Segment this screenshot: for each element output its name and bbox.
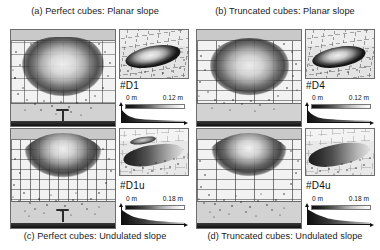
perspective-scatter: [306, 129, 374, 175]
colorbar-max-label: 0.18 m: [163, 195, 183, 202]
panel-b-colorbar: 0 m 0.12 m: [311, 94, 369, 104]
particle-scatter: [11, 129, 115, 228]
panel-a-caption: (a) Perfect cubes: Planar slope: [0, 6, 190, 16]
figure-root: (a) Perfect cubes: Planar slope: [0, 0, 380, 250]
perspective-scatter: [120, 129, 188, 175]
perspective-scatter: [120, 30, 188, 78]
panel-b-perspective-view: [305, 29, 375, 79]
panel-d: (d) Truncated cubes: Undulated slope: [190, 125, 380, 250]
panel-a-perspective-view: [119, 29, 189, 79]
profile-x-axis: [307, 122, 371, 123]
particle-scatter: [197, 129, 301, 228]
panel-a-deposit-label: #D1: [120, 80, 139, 91]
panel-d-plan-view: [196, 128, 302, 229]
panel-c-deposit-label: #D1u: [120, 180, 145, 191]
profile-deposit-thickness: [308, 208, 370, 224]
panel-b-deposit-label: #D4: [306, 80, 325, 91]
profile-y-arrow: [305, 102, 309, 106]
profile-deposit-thickness: [308, 107, 370, 122]
profile-y-arrow: [119, 102, 123, 106]
profile-x-axis: [307, 224, 371, 225]
panel-a-plan-view: [10, 29, 116, 127]
panel-a: (a) Perfect cubes: Planar slope: [0, 0, 190, 125]
panel-b-caption: (b) Truncated cubes: Planar slope: [190, 6, 380, 16]
panel-c-profile-plot: [121, 207, 185, 225]
panel-c-perspective-view: [119, 128, 189, 176]
panel-a-colorbar: 0 m 0.12 m: [125, 94, 183, 104]
profile-y-arrow: [305, 203, 309, 207]
profile-x-axis: [121, 224, 185, 225]
colorbar-min-label: 0 m: [312, 195, 323, 202]
panel-c-caption: (c) Perfect cubes: Undulated slope: [0, 231, 190, 241]
panel-d-deposit-label: #D4u: [306, 180, 331, 191]
panel-a-profile-plot: [121, 106, 185, 123]
panel-c-plan-view: [10, 128, 116, 229]
colorbar-max-label: 0.12 m: [349, 94, 369, 101]
perspective-scatter: [306, 30, 374, 78]
colorbar-min-label: 0 m: [126, 195, 137, 202]
panel-d-caption: (d) Truncated cubes: Undulated slope: [190, 231, 380, 241]
panel-d-profile-plot: [307, 207, 371, 225]
profile-deposit-thickness: [122, 107, 184, 122]
panel-c: (c) Perfect cubes: Undulated slope: [0, 125, 190, 250]
colorbar-min-label: 0 m: [126, 94, 137, 101]
panel-c-colorbar: 0 m 0.18 m: [125, 195, 183, 205]
profile-deposit-thickness: [122, 208, 184, 224]
particle-scatter: [11, 30, 115, 126]
colorbar-max-label: 0.18 m: [349, 195, 369, 202]
panel-d-colorbar: 0 m 0.18 m: [311, 195, 369, 205]
profile-x-axis: [121, 122, 185, 123]
profile-x-arrow: [184, 223, 188, 227]
profile-y-arrow: [119, 203, 123, 207]
panel-b: (b) Truncated cubes: Planar slope: [190, 0, 380, 125]
panel-d-perspective-view: [305, 128, 375, 176]
colorbar-min-label: 0 m: [312, 94, 323, 101]
profile-x-arrow: [370, 223, 374, 227]
panel-b-profile-plot: [307, 106, 371, 123]
panel-b-plan-view: [196, 29, 302, 127]
particle-scatter: [197, 30, 301, 126]
colorbar-max-label: 0.12 m: [163, 94, 183, 101]
